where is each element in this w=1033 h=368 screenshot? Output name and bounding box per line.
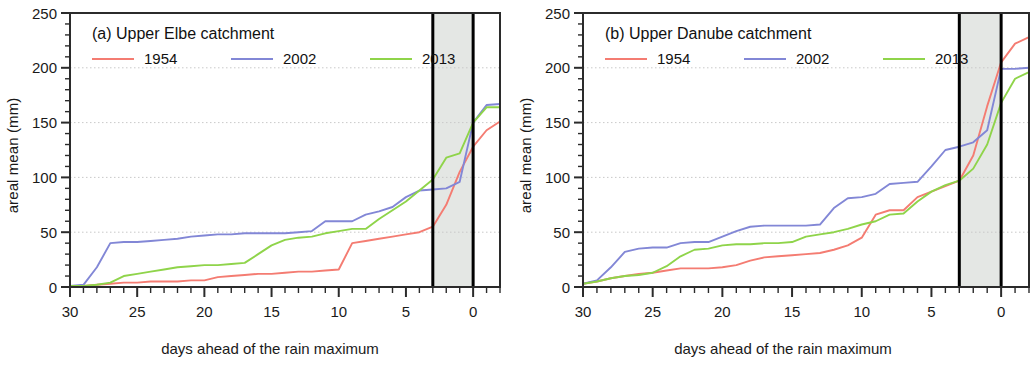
x-axis-ticks: 302520151050 xyxy=(575,287,1029,320)
legend-label-2013: 2013 xyxy=(935,50,968,67)
y-tick-label: 100 xyxy=(32,169,57,186)
plot-area-a: 050100150200250302520151050(a) Upper Elb… xyxy=(24,4,516,324)
y-axis-label-b: areal mean (mm) xyxy=(515,0,537,310)
legend-label-1954: 1954 xyxy=(144,50,177,67)
x-tick-label: 30 xyxy=(62,303,79,320)
legend-label-2013: 2013 xyxy=(422,50,455,67)
x-tick-label: 0 xyxy=(469,303,477,320)
legend-label-2002: 2002 xyxy=(283,50,316,67)
y-tick-label: 250 xyxy=(32,5,57,22)
x-tick-label: 0 xyxy=(997,303,1005,320)
x-tick-label: 30 xyxy=(575,303,592,320)
x-axis-label-b: days ahead of the rain maximum xyxy=(573,340,993,357)
y-axis-ticks: 050100150200250 xyxy=(545,5,583,296)
y-tick-label: 0 xyxy=(49,279,57,296)
panel-a-upper-elbe: areal mean (mm) 050100150200250302520151… xyxy=(0,0,516,368)
y-axis-label-a: areal mean (mm) xyxy=(2,0,24,310)
plot-svg-a: 050100150200250302520151050(a) Upper Elb… xyxy=(24,4,516,324)
y-axis-ticks: 050100150200250 xyxy=(32,5,70,296)
x-axis-ticks: 302520151050 xyxy=(62,287,500,320)
panel-title: (a) Upper Elbe catchment xyxy=(92,25,275,42)
x-tick-label: 10 xyxy=(853,303,870,320)
y-tick-label: 200 xyxy=(545,59,570,76)
panel-b-upper-danube: areal mean (mm) 050100150200250302520151… xyxy=(513,0,1033,368)
y-tick-label: 200 xyxy=(32,59,57,76)
x-tick-label: 25 xyxy=(129,303,146,320)
panel-title: (b) Upper Danube catchment xyxy=(605,25,812,42)
x-tick-label: 20 xyxy=(196,303,213,320)
y-tick-label: 0 xyxy=(562,279,570,296)
y-tick-label: 150 xyxy=(32,114,57,131)
x-tick-label: 10 xyxy=(330,303,347,320)
legend-label-2002: 2002 xyxy=(796,50,829,67)
y-tick-label: 150 xyxy=(545,114,570,131)
x-tick-label: 15 xyxy=(784,303,801,320)
plot-area-b: 050100150200250302520151050(b) Upper Dan… xyxy=(537,4,1033,324)
y-tick-label: 250 xyxy=(545,5,570,22)
legend-label-1954: 1954 xyxy=(657,50,690,67)
y-tick-label: 50 xyxy=(40,224,57,241)
x-tick-label: 15 xyxy=(263,303,280,320)
x-tick-label: 20 xyxy=(714,303,731,320)
x-tick-label: 5 xyxy=(927,303,935,320)
x-tick-label: 25 xyxy=(644,303,661,320)
figure-two-panel-line-chart: areal mean (mm) 050100150200250302520151… xyxy=(0,0,1033,368)
y-tick-label: 100 xyxy=(545,169,570,186)
x-axis-label-a: days ahead of the rain maximum xyxy=(60,340,480,357)
x-tick-label: 5 xyxy=(402,303,410,320)
y-tick-label: 50 xyxy=(553,224,570,241)
plot-svg-b: 050100150200250302520151050(b) Upper Dan… xyxy=(537,4,1033,324)
